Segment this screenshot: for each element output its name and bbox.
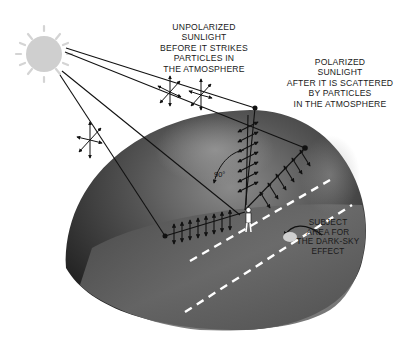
unpolarized-star-icon [189, 79, 212, 110]
polarized-label: POLARIZED SUNLIGHT AFTER IT IS SCATTERED… [272, 57, 408, 109]
sky-polarization-diagram: UNPOLARIZED SUNLIGHT BEFORE IT STRIKES P… [0, 0, 413, 342]
unpolarized-star-icon [77, 122, 102, 158]
unpolarized-label: UNPOLARIZED SUNLIGHT BEFORE IT STRIKES P… [140, 22, 268, 74]
angle-label: 90° [214, 170, 225, 179]
sun-icon [16, 26, 72, 82]
subject-area-label: SUBJECT AREA FOR THE DARK-SKY EFFECT [292, 218, 364, 256]
